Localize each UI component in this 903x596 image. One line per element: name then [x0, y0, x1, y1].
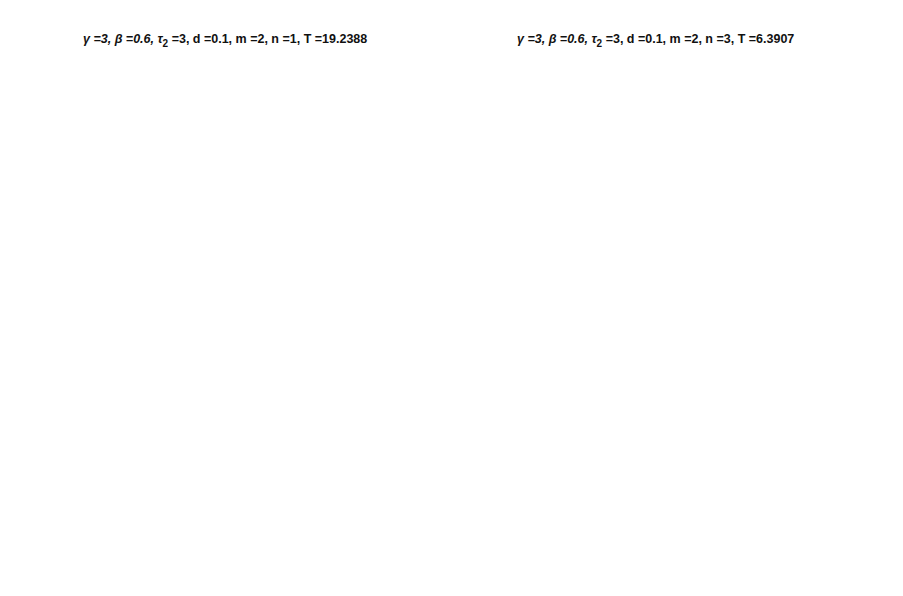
right-plot-panel: γ =3, β =0.6, τ2 =3, d =0.1, m =2, n =3,…	[0, 0, 903, 596]
right-line-chart	[0, 0, 903, 596]
